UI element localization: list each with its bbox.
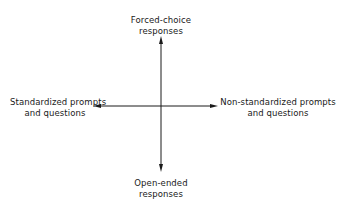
arrow-up-icon — [159, 36, 163, 44]
arrow-right-icon — [210, 104, 218, 108]
arrow-down-icon — [159, 164, 163, 172]
label-forced-choice: Forced-choice responses — [126, 15, 196, 37]
label-standardized: Standardized prompts and questions — [10, 97, 100, 119]
label-non-standardized: Non-standardized prompts and questions — [218, 97, 338, 119]
label-open-ended: Open-ended responses — [126, 178, 196, 200]
